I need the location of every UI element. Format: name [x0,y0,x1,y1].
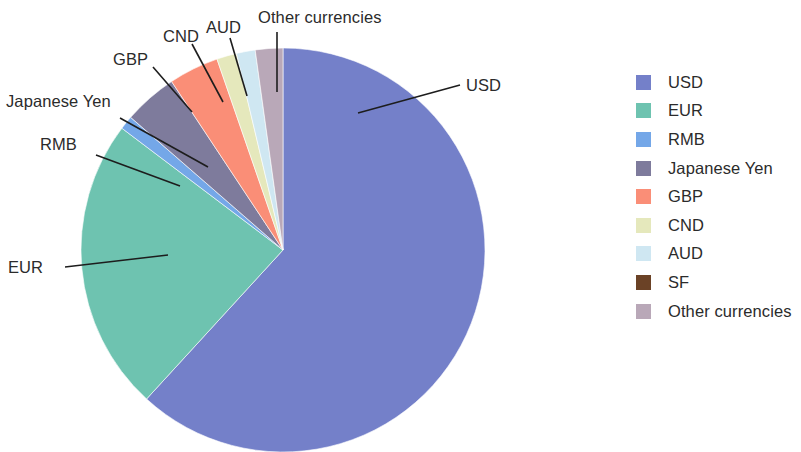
legend-label: Other currencies [668,302,792,321]
legend-swatch-icon [636,103,651,118]
callout-label-cnd: CND [163,27,199,46]
legend-swatch-icon [636,161,651,176]
legend-item-aud[interactable]: AUD [636,240,801,269]
legend-swatch-icon [636,132,651,147]
chart-legend: USDEURRMBJapanese YenGBPCNDAUDSFOther cu… [636,68,801,325]
legend-item-eur[interactable]: EUR [636,97,801,126]
legend-swatch-icon [636,218,651,233]
legend-label: GBP [668,187,703,206]
legend-label: Japanese Yen [668,159,773,178]
callout-label-eur: EUR [8,258,43,277]
legend-label: CND [668,216,704,235]
legend-label: USD [668,73,703,92]
legend-swatch-icon [636,75,651,90]
callout-label-gbp: GBP [113,50,148,69]
legend-swatch-icon [636,189,651,204]
legend-label: EUR [668,101,703,120]
pie-slices-group [81,48,485,452]
pie-chart-figure: USD EUR RMB Japanese Yen GBP CND AUD Oth… [0,0,801,452]
callout-label-aud: AUD [206,18,241,37]
legend-label: RMB [668,130,705,149]
legend-item-usd[interactable]: USD [636,68,801,97]
legend-label: SF [668,273,689,292]
callout-label-japanese-yen: Japanese Yen [6,92,111,111]
legend-item-cnd[interactable]: CND [636,211,801,240]
legend-label: AUD [668,244,703,263]
legend-item-japanese-yen[interactable]: Japanese Yen [636,154,801,183]
legend-swatch-icon [636,304,651,319]
callout-label-other-currencies: Other currencies [258,8,382,27]
legend-item-gbp[interactable]: GBP [636,182,801,211]
legend-item-other-currencies[interactable]: Other currencies [636,297,801,326]
callout-label-usd: USD [466,76,501,95]
callout-label-rmb: RMB [40,135,77,154]
legend-item-sf[interactable]: SF [636,268,801,297]
legend-item-rmb[interactable]: RMB [636,125,801,154]
legend-swatch-icon [636,275,651,290]
legend-swatch-icon [636,246,651,261]
